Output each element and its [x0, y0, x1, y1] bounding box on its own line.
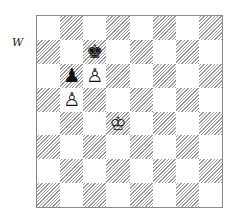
square-a5: [37, 88, 60, 112]
square-g8: [176, 16, 199, 40]
square-a7: [37, 40, 60, 64]
square-h3: [199, 135, 222, 159]
square-d4: ♔: [106, 112, 129, 136]
square-g6: [176, 64, 199, 88]
square-f6: [153, 64, 176, 88]
square-a2: [37, 159, 60, 183]
square-h1: [199, 183, 222, 207]
black-pawn-icon: ♟: [63, 66, 80, 85]
square-h2: [199, 159, 222, 183]
square-h5: [199, 88, 222, 112]
square-e4: [130, 112, 153, 136]
square-a4: [37, 112, 60, 136]
square-b6: ♟: [60, 64, 83, 88]
square-c4: [83, 112, 106, 136]
square-a1: [37, 183, 60, 207]
square-e2: [130, 159, 153, 183]
square-e1: [130, 183, 153, 207]
square-f1: [153, 183, 176, 207]
square-c5: [83, 88, 106, 112]
black-king-icon: ♚: [86, 42, 103, 61]
square-f8: [153, 16, 176, 40]
chess-board: ♚♟♙♙♔: [36, 15, 223, 208]
square-c8: [83, 16, 106, 40]
square-g2: [176, 159, 199, 183]
square-b8: [60, 16, 83, 40]
square-a6: [37, 64, 60, 88]
square-b5: ♙: [60, 88, 83, 112]
square-e5: [130, 88, 153, 112]
square-g7: [176, 40, 199, 64]
square-e3: [130, 135, 153, 159]
square-h8: [199, 16, 222, 40]
side-to-move-label: W: [12, 36, 23, 49]
square-e8: [130, 16, 153, 40]
square-c1: [83, 183, 106, 207]
square-c3: [83, 135, 106, 159]
square-e7: [130, 40, 153, 64]
square-g4: [176, 112, 199, 136]
white-king-icon: ♔: [109, 114, 126, 133]
square-d2: [106, 159, 129, 183]
square-d3: [106, 135, 129, 159]
square-e6: [130, 64, 153, 88]
square-d5: [106, 88, 129, 112]
white-pawn-icon: ♙: [63, 90, 80, 109]
square-h7: [199, 40, 222, 64]
square-f2: [153, 159, 176, 183]
square-b4: [60, 112, 83, 136]
square-b2: [60, 159, 83, 183]
square-h6: [199, 64, 222, 88]
square-h4: [199, 112, 222, 136]
square-c6: ♙: [83, 64, 106, 88]
square-a3: [37, 135, 60, 159]
square-b1: [60, 183, 83, 207]
square-f4: [153, 112, 176, 136]
square-f7: [153, 40, 176, 64]
square-c7: ♚: [83, 40, 106, 64]
square-g1: [176, 183, 199, 207]
square-a8: [37, 16, 60, 40]
square-b3: [60, 135, 83, 159]
square-f3: [153, 135, 176, 159]
square-d6: [106, 64, 129, 88]
square-g5: [176, 88, 199, 112]
square-b7: [60, 40, 83, 64]
square-f5: [153, 88, 176, 112]
square-g3: [176, 135, 199, 159]
square-d8: [106, 16, 129, 40]
white-pawn-icon: ♙: [86, 66, 103, 85]
square-d1: [106, 183, 129, 207]
square-d7: [106, 40, 129, 64]
square-c2: [83, 159, 106, 183]
